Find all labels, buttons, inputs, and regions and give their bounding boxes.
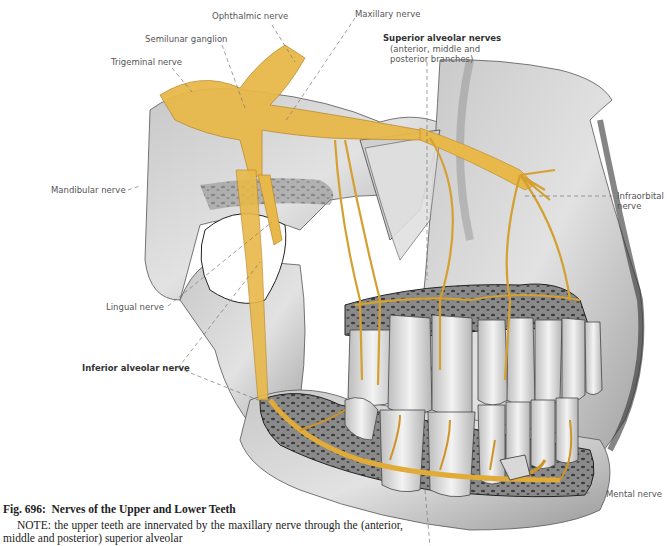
- figure-caption-title: Fig. 696: Nerves of the Upper and Lower …: [3, 503, 236, 515]
- label-superior-alveolar-nerves: Superior alveolar nerves: [383, 33, 501, 43]
- label-lingual-nerve: Lingual nerve: [106, 302, 164, 312]
- figure-note: NOTE: the upper teeth are innervated by …: [3, 519, 403, 545]
- label-infraorbital-nerve-line1: Infraorbital: [617, 191, 664, 201]
- label-superior-alveolar-sub2: posterior branches): [390, 54, 473, 64]
- label-mental-nerve: Mental nerve: [606, 489, 662, 499]
- label-inferior-alveolar-nerve: Inferior alveolar nerve: [82, 363, 190, 373]
- figure-number: Fig. 696:: [3, 503, 46, 515]
- label-trigeminal-nerve: Trigeminal nerve: [111, 57, 182, 67]
- label-superior-alveolar-sub1: (anterior, middle and: [390, 44, 480, 54]
- label-mandibular-nerve: Mandibular nerve: [51, 185, 126, 195]
- anatomical-figure: Ophthalmic nerve Maxillary nerve Semilun…: [0, 0, 670, 546]
- label-infraorbital-nerve-line2: nerve: [617, 201, 641, 211]
- figure-title: Nerves of the Upper and Lower Teeth: [52, 503, 236, 515]
- skull-teeth-nerves-illustration: [0, 0, 670, 546]
- label-semilunar-ganglion: Semilunar ganglion: [145, 34, 228, 44]
- label-ophthalmic-nerve: Ophthalmic nerve: [212, 11, 288, 21]
- label-maxillary-nerve: Maxillary nerve: [355, 9, 420, 19]
